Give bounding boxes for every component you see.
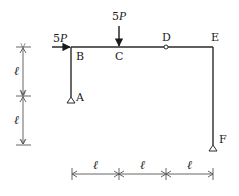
load-v-label: 5P <box>112 9 127 23</box>
node-label-A: A <box>75 91 85 104</box>
pin-support-icon-A <box>67 97 75 103</box>
node-label-E: E <box>211 31 219 44</box>
node-label-B: B <box>76 50 84 63</box>
frame-diagram: 5P 5P B C D E A F ℓ ℓ ℓ ℓ ℓ <box>0 0 239 196</box>
dim-label-h2: ℓ <box>140 158 145 172</box>
node-label-F: F <box>219 133 227 146</box>
load-h-label: 5P <box>53 31 68 45</box>
pin-support-icon-F <box>209 145 217 151</box>
node-label-D: D <box>162 31 171 44</box>
dim-label-v2: ℓ <box>14 113 19 127</box>
dim-label-h3: ℓ <box>187 158 192 172</box>
dim-label-v1: ℓ <box>14 64 19 78</box>
vertical-dimension <box>16 47 31 145</box>
hinge-icon <box>164 45 168 49</box>
dim-label-h1: ℓ <box>93 158 98 172</box>
frame-members <box>71 47 213 145</box>
node-label-C: C <box>115 50 123 63</box>
